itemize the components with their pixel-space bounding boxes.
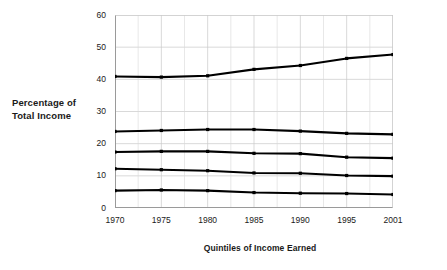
data-point bbox=[345, 192, 348, 195]
data-point bbox=[299, 64, 302, 67]
data-point bbox=[345, 132, 348, 135]
x-tick-label: 1990 bbox=[280, 216, 320, 225]
data-point bbox=[345, 174, 348, 177]
line-chart: Percentage of Total Income 0102030405060… bbox=[0, 0, 447, 270]
data-point bbox=[252, 128, 255, 131]
data-point bbox=[299, 172, 302, 175]
data-point bbox=[115, 150, 117, 153]
data-point bbox=[299, 152, 302, 155]
x-tick-label: 1975 bbox=[141, 216, 181, 225]
y-tick-label: 30 bbox=[84, 107, 106, 116]
y-tick-label: 40 bbox=[84, 75, 106, 84]
data-point bbox=[252, 191, 255, 194]
x-tick-label: 2001 bbox=[373, 216, 413, 225]
data-point bbox=[299, 192, 302, 195]
data-point bbox=[299, 130, 302, 133]
data-point bbox=[206, 169, 209, 172]
data-point bbox=[206, 189, 209, 192]
x-tick-label: 1985 bbox=[234, 216, 274, 225]
data-point bbox=[206, 74, 209, 77]
plot-svg bbox=[115, 15, 393, 208]
data-point bbox=[160, 188, 163, 191]
x-axis-title: Quintiles of Income Earned bbox=[110, 243, 410, 253]
y-tick-label: 50 bbox=[84, 43, 106, 52]
data-point bbox=[345, 57, 348, 60]
data-point bbox=[115, 130, 117, 133]
data-point bbox=[391, 157, 393, 160]
y-tick-label: 10 bbox=[84, 171, 106, 180]
data-point bbox=[206, 150, 209, 153]
data-point bbox=[160, 75, 163, 78]
data-point bbox=[115, 167, 117, 170]
data-point bbox=[391, 175, 393, 178]
data-point bbox=[345, 156, 348, 159]
data-point bbox=[391, 193, 393, 196]
data-point bbox=[115, 189, 117, 192]
y-tick-label: 20 bbox=[84, 139, 106, 148]
data-point bbox=[391, 133, 393, 136]
x-tick-label: 1980 bbox=[188, 216, 228, 225]
x-tick-label: 1995 bbox=[327, 216, 367, 225]
y-tick-label: 60 bbox=[84, 11, 106, 20]
data-point bbox=[160, 168, 163, 171]
data-point bbox=[252, 152, 255, 155]
data-point bbox=[252, 68, 255, 71]
data-point bbox=[160, 150, 163, 153]
data-point bbox=[115, 75, 117, 78]
x-tick-label: 1970 bbox=[95, 216, 135, 225]
plot-area bbox=[115, 15, 393, 208]
data-point bbox=[206, 128, 209, 131]
data-point bbox=[252, 171, 255, 174]
y-tick-label: 0 bbox=[84, 204, 106, 213]
data-point bbox=[391, 53, 393, 56]
data-point bbox=[160, 129, 163, 132]
